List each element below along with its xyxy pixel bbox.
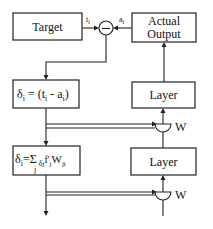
arrow-up-icon bbox=[161, 108, 166, 113]
sigma-subscript: j bbox=[33, 165, 36, 174]
arrow-left-icon bbox=[113, 26, 118, 31]
weight-adder-2: W bbox=[155, 188, 187, 202]
weight-label-1: W bbox=[175, 120, 187, 134]
arrow-right-icon bbox=[94, 26, 99, 31]
error-path bbox=[46, 35, 106, 77]
t-label: ti bbox=[86, 15, 90, 25]
comparator bbox=[99, 21, 113, 35]
arrow-down-icon bbox=[44, 75, 49, 80]
actual-label: Actual bbox=[148, 14, 181, 28]
weight-label-2: W bbox=[175, 188, 187, 202]
delta-output-formula: δi = (ti - ai) bbox=[17, 87, 69, 103]
weight-adder-1: W bbox=[155, 120, 187, 134]
layer-top-label: Layer bbox=[150, 88, 178, 102]
arrow-down-icon bbox=[44, 211, 49, 216]
target-label: Target bbox=[32, 20, 63, 34]
backprop-diagram: Target ti ai Actual Output δi = (ti - ai… bbox=[0, 0, 213, 229]
layer-bottom-label: Layer bbox=[150, 155, 178, 169]
layer-bottom-block: Layer bbox=[131, 148, 196, 175]
arrow-up-icon bbox=[162, 42, 167, 47]
output-label: Output bbox=[147, 27, 181, 41]
actual-output-block: Actual Output bbox=[132, 13, 196, 42]
a-label: ai bbox=[119, 15, 125, 25]
target-block: Target bbox=[13, 13, 82, 40]
arrow-up-icon bbox=[161, 175, 166, 180]
delta-hidden-block: δi=Σ δjf'jWji j bbox=[13, 146, 80, 175]
delta-output-block: δi = (ti - ai) bbox=[13, 80, 79, 108]
arrow-down-icon bbox=[44, 141, 49, 146]
layer-top-block: Layer bbox=[132, 82, 195, 108]
